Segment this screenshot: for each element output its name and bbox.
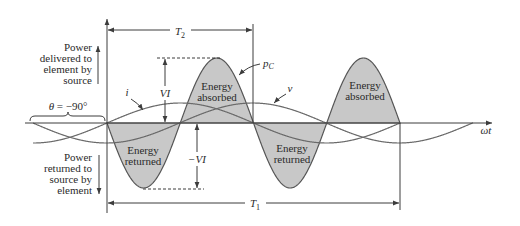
curve-label-pc: pC bbox=[239, 57, 275, 75]
power-delivered-line-4: source bbox=[63, 74, 92, 86]
power-returned-line-4: element bbox=[57, 184, 92, 196]
phase-angle-label: θ = −90° bbox=[49, 100, 88, 112]
voltage-label: v bbox=[288, 82, 293, 94]
current-label: i bbox=[125, 86, 128, 98]
lobe-label-absorbed-1: Energy absorbed bbox=[197, 80, 237, 103]
t1-label: T1 bbox=[250, 197, 260, 212]
phase-value: = −90° bbox=[54, 100, 87, 112]
lobe-label-absorbed-2: Energy absorbed bbox=[345, 79, 385, 102]
phase-angle-annotation: θ = −90° bbox=[30, 100, 105, 121]
lobe-label-line-2: returned bbox=[125, 155, 162, 167]
curve-label-i: i bbox=[125, 86, 143, 110]
brace-icon bbox=[30, 112, 105, 121]
lobe-label-returned-2: Energy returned bbox=[274, 142, 311, 165]
pointer-arrow-icon bbox=[239, 64, 260, 75]
pc-subscript: C bbox=[269, 62, 275, 71]
t2-dimension: T2 bbox=[108, 25, 252, 40]
curve-label-v: v bbox=[274, 82, 293, 103]
axis-label-omega-t: ωt bbox=[481, 124, 493, 136]
t1-subscript: 1 bbox=[256, 203, 260, 212]
pointer-arrow-icon bbox=[131, 99, 143, 110]
power-label: pC bbox=[262, 57, 275, 71]
vi-label: VI bbox=[160, 87, 172, 99]
lobe-label-returned-1: Energy returned bbox=[125, 144, 162, 167]
lobe-label-line-2: returned bbox=[274, 153, 311, 165]
t1-dimension: T1 bbox=[108, 197, 399, 212]
pointer-arrow-icon bbox=[274, 94, 286, 103]
lobe-label-line-2: absorbed bbox=[197, 91, 237, 103]
lobe-label-line-2: absorbed bbox=[345, 90, 385, 102]
t2-label: T2 bbox=[175, 25, 185, 40]
power-delivered-annotation: Power delivered to element by source bbox=[40, 41, 98, 86]
neg-vi-label: −VI bbox=[188, 153, 207, 165]
power-returned-annotation: Power returned to source by element bbox=[44, 151, 99, 196]
capacitor-power-diagram: ωt Power delivered to element by source … bbox=[0, 0, 520, 226]
t2-subscript: 2 bbox=[181, 31, 185, 40]
